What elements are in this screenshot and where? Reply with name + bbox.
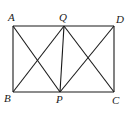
label-A: A: [7, 11, 15, 23]
label-B: B: [4, 92, 11, 104]
label-P: P: [55, 93, 63, 105]
geometry-figure: A Q D B P C: [0, 0, 132, 120]
label-D: D: [115, 13, 124, 25]
label-Q: Q: [59, 11, 67, 23]
segments: [13, 26, 114, 92]
segment-QP: [60, 26, 64, 92]
label-C: C: [112, 94, 120, 106]
